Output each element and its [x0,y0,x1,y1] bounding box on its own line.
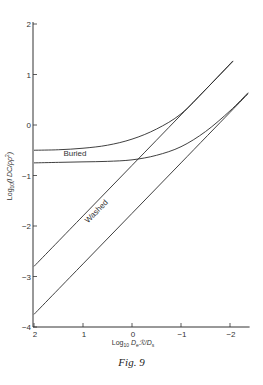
annotation-buried: Buried [63,149,86,158]
series-lines [34,61,248,315]
series-line-2 [34,61,233,150]
y-tick-label: −2 [22,222,32,231]
y-axis-title: Log10(l DC/ρρ2) [4,152,15,200]
axis-titles: Log10 Deℛ/Ds Log10(l DC/ρρ2) [4,152,155,348]
x-axis-title: Log10 Deℛ/Ds [112,339,155,348]
y-tick-label: −4 [22,323,32,332]
y-tick-label: 1 [27,71,32,80]
x-tick-label: −1 [177,330,187,339]
annotations: BuriedWashed [63,149,109,225]
x-tick-label: 0 [131,330,136,339]
x-tick-label: 1 [82,330,87,339]
chart-plot: 210−1−2−3−4210−1−2 BuriedWashed Log10 De… [0,0,263,385]
y-tick-label: −3 [22,273,32,282]
series-line-1 [34,94,248,315]
y-tick-label: −1 [22,172,32,181]
y-tick-label: 2 [27,20,32,29]
y-tick-label: 0 [27,121,32,130]
figure-caption: Fig. 9 [0,356,263,368]
x-tick-label: −2 [226,330,236,339]
x-tick-label: 2 [33,330,38,339]
